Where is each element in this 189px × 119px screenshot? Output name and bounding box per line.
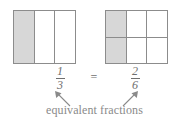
bar-column-2 [35,11,56,63]
bar-cell-empty [147,38,167,64]
bar-model-two-sixths [105,10,168,64]
bar-cell-empty [55,11,75,63]
equals-sign: = [85,70,103,85]
figure-caption: equivalent fractions [0,103,189,118]
fraction-label-one-third: 1 3 [48,66,72,91]
bar-column-1 [14,11,35,63]
bar-column-3 [55,11,75,63]
fraction-numerator: 1 [57,66,63,77]
bar-column-1 [106,11,127,63]
fraction-label-two-sixths: 2 6 [123,66,147,91]
fraction-numerator: 2 [132,66,138,77]
bar-cell-empty [147,11,167,38]
bar-cell-empty [35,11,55,63]
bar-column-3 [147,11,167,63]
bar-cell-shaded [106,38,126,64]
bar-cell-empty [127,38,147,64]
bar-cell-empty [127,11,147,38]
bar-model-one-third [13,10,76,64]
bar-column-2 [127,11,148,63]
bar-cell-shaded [106,11,126,38]
equivalent-fractions-figure: 1 3 = 2 6 equivalent fractions [0,0,189,119]
bar-cell-shaded [14,11,34,63]
